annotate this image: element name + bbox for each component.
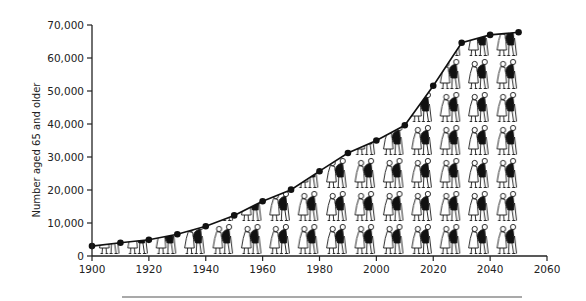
data-point-marker — [487, 32, 494, 39]
y-tick-label: 40,000 — [47, 118, 84, 130]
x-tick-label: 1980 — [306, 263, 333, 275]
y-tick-label: 50,000 — [47, 85, 84, 97]
x-tick-label: 1940 — [192, 263, 219, 275]
y-axis-title: Number aged 65 and older — [31, 82, 42, 218]
data-point-marker — [430, 82, 437, 89]
data-point-marker — [458, 40, 465, 47]
y-tick-label: 20,000 — [47, 184, 84, 196]
y-tick-label: 10,000 — [47, 217, 84, 229]
data-point-marker — [231, 212, 238, 219]
data-point-marker — [345, 150, 352, 157]
x-tick-label: 2040 — [477, 263, 504, 275]
data-point-marker — [288, 186, 295, 193]
pictogram-fill — [92, 20, 552, 256]
y-tick-label: 30,000 — [47, 151, 84, 163]
data-point-marker — [146, 237, 153, 244]
x-tick-label: 1960 — [249, 263, 276, 275]
x-tick-label: 1900 — [79, 263, 106, 275]
data-point-marker — [316, 168, 323, 175]
y-tick-label: 60,000 — [47, 52, 84, 64]
x-tick-label: 2000 — [363, 263, 390, 275]
data-point-marker — [402, 122, 409, 129]
data-point-marker — [259, 198, 266, 205]
data-point-marker — [174, 231, 181, 238]
data-point-marker — [373, 137, 380, 144]
y-axis-ticks: 010,00020,00030,00040,00050,00060,00070,… — [47, 19, 92, 262]
population-pictogram-chart: 010,00020,00030,00040,00050,00060,00070,… — [0, 0, 586, 301]
x-tick-label: 2020 — [420, 263, 447, 275]
data-point-marker — [117, 240, 124, 247]
x-tick-label: 2060 — [534, 263, 561, 275]
data-point-marker — [515, 29, 522, 36]
data-point-marker — [202, 223, 209, 230]
x-tick-label: 1920 — [136, 263, 163, 275]
x-axis-ticks: 190019201940196019802000202020402060 — [79, 256, 561, 275]
y-tick-label: 70,000 — [47, 19, 84, 31]
y-tick-label: 0 — [77, 250, 84, 262]
